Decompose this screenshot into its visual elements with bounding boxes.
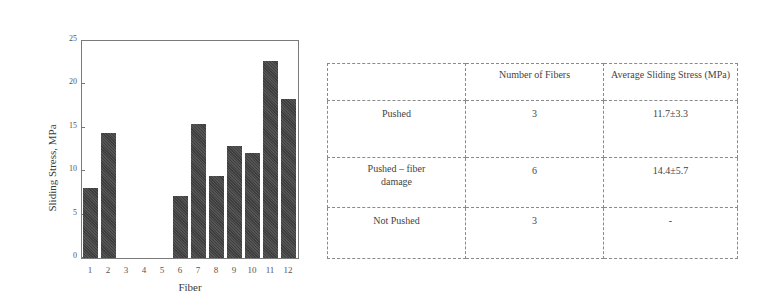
bar-chart: Sliding Stress, MPa 0510152025 123456789… xyxy=(0,0,320,294)
avg-stress: 14.4±5.7 xyxy=(604,158,738,208)
bar-fiber-8 xyxy=(209,176,224,258)
y-tick-label: 25 xyxy=(57,34,77,43)
x-tick-label: 3 xyxy=(118,265,134,275)
fiber-count: 3 xyxy=(466,208,604,259)
bar-fiber-2 xyxy=(101,133,116,258)
row-label: Not Pushed xyxy=(328,208,466,259)
x-tick-label: 12 xyxy=(280,265,296,275)
plot-area xyxy=(81,40,299,259)
x-tick-label: 9 xyxy=(226,265,242,275)
bar-fiber-11 xyxy=(263,61,278,258)
avg-stress: - xyxy=(604,208,738,259)
bar-fiber-9 xyxy=(227,146,242,258)
table-header-cell: Number of Fibers xyxy=(466,64,604,101)
x-tick-label: 11 xyxy=(262,265,278,275)
x-tick-label: 2 xyxy=(100,265,116,275)
table-header-row: Number of Fibers Average Sliding Stress … xyxy=(328,64,738,101)
avg-stress: 11.7±3.3 xyxy=(604,101,738,158)
row-label: Pushed xyxy=(328,101,466,158)
results-table: Number of Fibers Average Sliding Stress … xyxy=(327,63,738,259)
table-header-cell: Average Sliding Stress (MPa) xyxy=(604,64,738,101)
y-tick-label: 15 xyxy=(57,121,77,130)
bar-fiber-6 xyxy=(173,196,188,258)
x-tick-label: 4 xyxy=(136,265,152,275)
x-tick-label: 6 xyxy=(172,265,188,275)
y-tick-label: 0 xyxy=(57,251,77,260)
table-row: Not Pushed 3 - xyxy=(328,208,738,259)
bar-fiber-12 xyxy=(281,99,296,258)
bar-fiber-7 xyxy=(191,124,206,258)
x-tick-label: 8 xyxy=(208,265,224,275)
y-tick-label: 5 xyxy=(57,208,77,217)
table-row: Pushed – fiber damage 6 14.4±5.7 xyxy=(328,158,738,208)
fiber-count: 6 xyxy=(466,158,604,208)
table-row: Pushed 3 11.7±3.3 xyxy=(328,101,738,158)
y-tick-label: 20 xyxy=(57,77,77,86)
y-tick-label: 10 xyxy=(57,164,77,173)
row-label: Pushed – fiber damage xyxy=(328,158,466,208)
x-axis-label: Fiber xyxy=(170,281,210,293)
bar-fiber-1 xyxy=(83,188,98,258)
bar-fiber-10 xyxy=(245,153,260,258)
table-header-cell xyxy=(328,64,466,101)
x-tick-label: 7 xyxy=(190,265,206,275)
x-tick-label: 5 xyxy=(154,265,170,275)
x-tick-label: 1 xyxy=(82,265,98,275)
x-tick-label: 10 xyxy=(244,265,260,275)
fiber-count: 3 xyxy=(466,101,604,158)
